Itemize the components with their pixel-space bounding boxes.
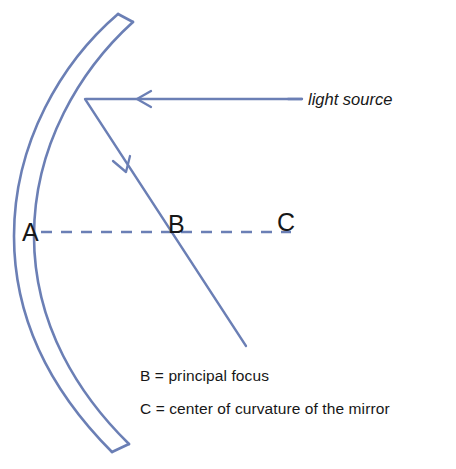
label-point-b: B xyxy=(168,210,185,238)
label-point-c: C xyxy=(277,208,295,236)
reflected-ray-line xyxy=(85,99,246,346)
reflected-ray-arrowhead-icon xyxy=(113,156,130,172)
label-light-source: light source xyxy=(308,90,392,108)
mirror-bottom-end-cap xyxy=(112,444,129,452)
legend-line-principal-focus: B = principal focus xyxy=(140,367,269,384)
mirror-top-end-cap xyxy=(118,14,133,22)
optics-diagram: A B C light source B = principal focus C… xyxy=(0,0,456,469)
incident-ray xyxy=(86,91,302,107)
label-point-a: A xyxy=(22,218,39,246)
reflected-ray xyxy=(85,99,246,346)
legend-line-center-of-curvature: C = center of curvature of the mirror xyxy=(140,400,390,417)
optics-svg-canvas: A B C light source B = principal focus C… xyxy=(0,0,456,469)
